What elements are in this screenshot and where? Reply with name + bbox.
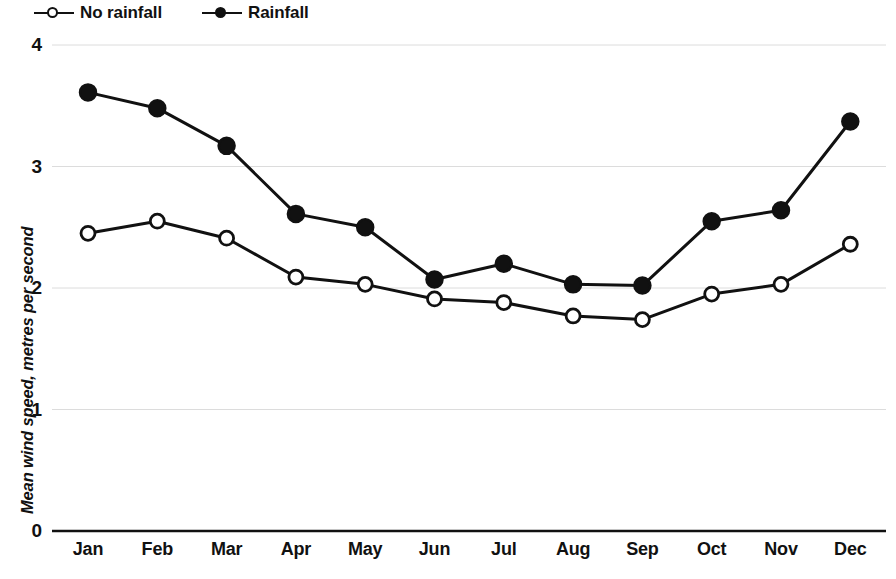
data-point-marker[interactable] [357,219,373,235]
data-point-marker[interactable] [428,292,442,306]
y-tick-label: 4 [12,34,42,56]
x-tick-label: Nov [747,539,815,560]
data-point-marker[interactable] [289,270,303,284]
x-tick-label: Sep [608,539,676,560]
data-point-marker[interactable] [358,277,372,291]
data-point-marker[interactable] [704,213,720,229]
data-point-marker[interactable] [220,231,234,245]
data-point-marker[interactable] [427,271,443,287]
chart-canvas [0,0,896,579]
data-point-marker[interactable] [149,100,165,116]
y-tick-label: 2 [12,277,42,299]
x-tick-label: May [331,539,399,560]
series-line [88,92,850,285]
data-point-marker[interactable] [497,296,511,310]
y-tick-label: 3 [12,156,42,178]
x-tick-label: Mar [193,539,261,560]
data-point-marker[interactable] [496,256,512,272]
data-point-marker[interactable] [634,278,650,294]
data-point-marker[interactable] [773,202,789,218]
wind-speed-line-chart: No rainfall Rainfall Mean wind speed, me… [0,0,896,579]
y-tick-label: 1 [12,399,42,421]
y-tick-label: 0 [12,520,42,542]
x-tick-label: Jul [470,539,538,560]
data-point-marker[interactable] [774,277,788,291]
data-point-marker[interactable] [705,287,719,301]
data-point-marker[interactable] [842,114,858,130]
x-tick-label: Feb [123,539,191,560]
series-rainfall [80,84,858,293]
x-tick-label: Oct [678,539,746,560]
x-tick-label: Aug [539,539,607,560]
data-point-marker[interactable] [843,237,857,251]
plot-area: 01234 JanFebMarAprMayJunJulAugSepOctNovD… [0,0,896,579]
x-tick-label: Dec [816,539,884,560]
data-point-marker[interactable] [566,309,580,323]
data-point-marker[interactable] [150,214,164,228]
data-point-marker[interactable] [635,313,649,327]
data-point-marker[interactable] [288,206,304,222]
x-tick-label: Jan [54,539,122,560]
data-point-marker[interactable] [565,276,581,292]
data-point-marker[interactable] [219,138,235,154]
x-tick-label: Apr [262,539,330,560]
x-tick-label: Jun [401,539,469,560]
data-point-marker[interactable] [80,84,96,100]
data-point-marker[interactable] [81,226,95,240]
